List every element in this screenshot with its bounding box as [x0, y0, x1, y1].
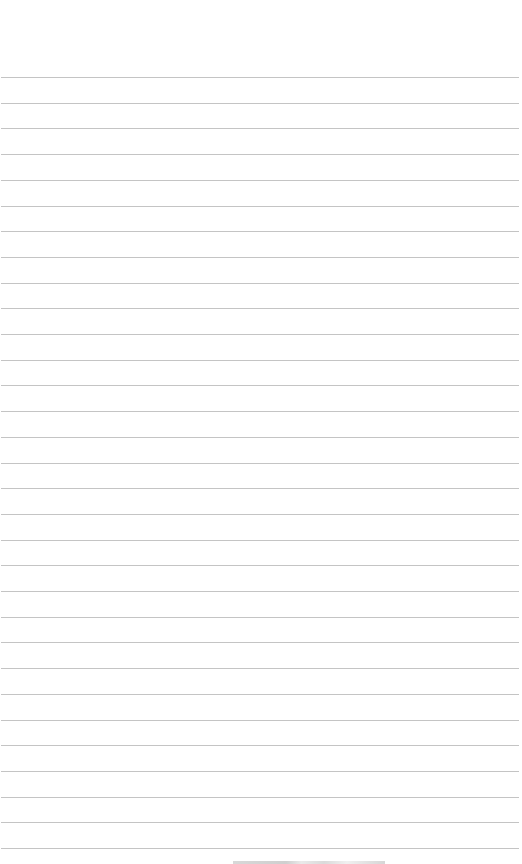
ruled-line [1, 283, 519, 284]
ruled-line [1, 617, 519, 618]
ruled-line [1, 437, 519, 438]
ruled-line [1, 103, 519, 104]
ruled-line [1, 694, 519, 695]
ruled-line [1, 206, 519, 207]
ruled-line [1, 231, 519, 232]
ruled-line [1, 591, 519, 592]
ruled-line [1, 822, 519, 823]
ruled-line [1, 514, 519, 515]
ruled-line [1, 771, 519, 772]
ruled-line [1, 745, 519, 746]
ruled-line [1, 360, 519, 361]
ruled-line [1, 308, 519, 309]
ruled-line [1, 642, 519, 643]
ruled-line [1, 668, 519, 669]
ruled-line [1, 488, 519, 489]
ruled-line [1, 180, 519, 181]
ruled-line [1, 128, 519, 129]
ruled-line [1, 848, 519, 849]
ruled-line [1, 540, 519, 541]
ruled-line [1, 797, 519, 798]
ruled-line [1, 77, 519, 78]
ruled-line [1, 720, 519, 721]
ruled-line [1, 257, 519, 258]
ruled-line [1, 154, 519, 155]
ruled-line [1, 411, 519, 412]
ruled-line [1, 565, 519, 566]
ruled-line [1, 385, 519, 386]
lined-paper-sheet [0, 0, 522, 864]
ruled-line [1, 463, 519, 464]
ruled-line [1, 334, 519, 335]
